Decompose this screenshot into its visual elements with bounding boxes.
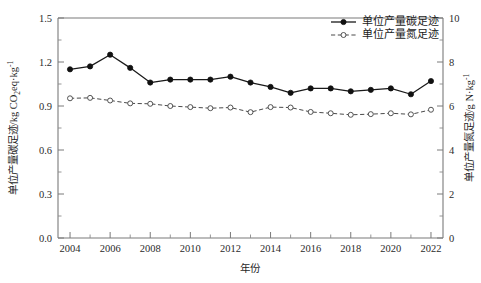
carbon-data-point[interactable]	[148, 80, 153, 85]
y-right-tick-label: 6	[449, 101, 454, 112]
y-right-title-prefix: 单位产量氮足迹/g N·kg	[463, 79, 475, 182]
x-tick-label: 2022	[420, 243, 441, 254]
x-axis-ticks: 2004200620082010201220142016201820202022	[60, 232, 442, 254]
legend-swatch-marker	[341, 33, 346, 38]
series-nitrogen	[68, 95, 434, 117]
nitrogen-data-point[interactable]	[68, 96, 73, 101]
y-right-tick-label: 2	[449, 189, 454, 200]
axis-frame	[58, 18, 443, 238]
svg-text:单位产量氮足迹/g N·kg-1: 单位产量氮足迹/g N·kg-1	[462, 73, 475, 182]
data-series-layer	[67, 52, 433, 117]
x-tick-label: 2006	[100, 243, 121, 254]
x-tick-label: 2010	[180, 243, 201, 254]
carbon-data-point[interactable]	[388, 86, 393, 91]
svg-text:单位产量碳足迹/kg CO2eq·kg-1: 单位产量碳足迹/kg CO2eq·kg-1	[6, 60, 22, 195]
nitrogen-data-point[interactable]	[328, 111, 333, 116]
y-right-tick-label: 8	[449, 57, 454, 68]
y-right-title-sup: -1	[462, 73, 471, 79]
carbon-data-point[interactable]	[348, 89, 353, 94]
nitrogen-data-point[interactable]	[248, 110, 253, 115]
carbon-data-point[interactable]	[268, 84, 273, 89]
carbon-data-point[interactable]	[328, 86, 333, 91]
y-axis-right-ticks: 0246810	[437, 13, 460, 244]
carbon-data-point[interactable]	[108, 52, 113, 57]
legend-swatch-marker	[341, 19, 346, 24]
carbon-data-point[interactable]	[67, 67, 72, 72]
y-left-tick-label: 0.6	[39, 145, 52, 156]
y-right-tick-label: 4	[449, 145, 455, 156]
y-axis-left-title: 单位产量碳足迹/kg CO2eq·kg-1	[6, 60, 22, 195]
nitrogen-data-point[interactable]	[308, 109, 313, 114]
nitrogen-data-point[interactable]	[368, 112, 373, 117]
nitrogen-data-point[interactable]	[428, 107, 433, 112]
chart-legend: 单位产量碳足迹单位产量氮足迹	[331, 14, 439, 40]
nitrogen-data-point[interactable]	[268, 105, 273, 110]
carbon-data-point[interactable]	[428, 78, 433, 83]
y-left-title-prefix: 单位产量碳足迹/kg CO	[7, 94, 19, 195]
y-left-tick-label: 0.3	[39, 189, 52, 200]
carbon-data-point[interactable]	[288, 90, 293, 95]
y-left-tick-label: 0.9	[39, 101, 52, 112]
carbon-data-point[interactable]	[308, 86, 313, 91]
x-tick-label: 2020	[380, 243, 401, 254]
nitrogen-data-point[interactable]	[228, 105, 233, 110]
y-right-tick-label: 0	[449, 233, 454, 244]
nitrogen-data-point[interactable]	[128, 101, 133, 106]
x-tick-label: 2018	[340, 243, 361, 254]
y-axis-left-ticks: 0.00.30.60.91.21.5	[39, 13, 64, 244]
y-left-title-mid: eq·kg	[8, 66, 19, 91]
line-chart-canvas: 0.00.30.60.91.21.5 0246810 2004200620082…	[0, 0, 481, 283]
carbon-data-point[interactable]	[188, 77, 193, 82]
nitrogen-data-point[interactable]	[288, 105, 293, 110]
carbon-data-point[interactable]	[368, 87, 373, 92]
legend-item[interactable]: 单位产量碳足迹	[331, 14, 439, 27]
carbon-data-point[interactable]	[128, 65, 133, 70]
y-right-tick-label: 10	[449, 13, 460, 24]
carbon-data-point[interactable]	[168, 77, 173, 82]
carbon-line	[70, 55, 431, 95]
y-left-tick-label: 1.2	[39, 57, 52, 68]
nitrogen-data-point[interactable]	[188, 105, 193, 110]
nitrogen-data-point[interactable]	[148, 101, 153, 106]
nitrogen-data-point[interactable]	[168, 104, 173, 109]
x-tick-label: 2012	[220, 243, 241, 254]
y-axis-right-title: 单位产量氮足迹/g N·kg-1	[462, 73, 475, 182]
legend-item-label: 单位产量碳足迹	[362, 14, 439, 27]
nitrogen-data-point[interactable]	[208, 106, 213, 111]
nitrogen-data-point[interactable]	[388, 111, 393, 116]
series-carbon	[67, 52, 433, 97]
x-tick-label: 2004	[60, 243, 82, 254]
x-tick-label: 2016	[300, 243, 321, 254]
x-axis-title: 年份	[240, 262, 261, 274]
nitrogen-data-point[interactable]	[408, 112, 413, 117]
carbon-data-point[interactable]	[208, 77, 213, 82]
carbon-data-point[interactable]	[228, 74, 233, 79]
legend-item[interactable]: 单位产量氮足迹	[331, 27, 439, 40]
y-left-tick-label: 1.5	[39, 13, 52, 24]
x-tick-label: 2014	[260, 243, 282, 254]
nitrogen-data-point[interactable]	[108, 98, 113, 103]
y-left-title-sup: -1	[6, 60, 15, 66]
x-tick-label: 2008	[140, 243, 161, 254]
y-left-tick-label: 0.0	[39, 233, 52, 244]
carbon-data-point[interactable]	[408, 92, 413, 97]
carbon-data-point[interactable]	[87, 64, 92, 69]
chart-figure: 0.00.30.60.91.21.5 0246810 2004200620082…	[0, 0, 481, 283]
nitrogen-data-point[interactable]	[88, 95, 93, 100]
carbon-data-point[interactable]	[248, 80, 253, 85]
nitrogen-data-point[interactable]	[348, 112, 353, 117]
legend-item-label: 单位产量氮足迹	[362, 27, 439, 40]
